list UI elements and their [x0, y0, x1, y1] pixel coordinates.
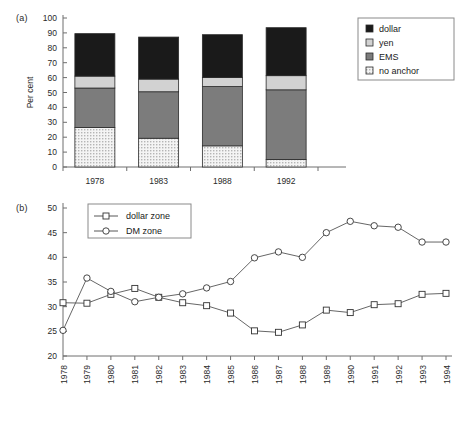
data-point-marker: [275, 249, 281, 255]
data-point-marker: [299, 254, 305, 260]
series-line: [63, 288, 446, 332]
x-axis-tick-label-b: 1992: [394, 365, 404, 384]
y-axis-tick-label-a: 40: [48, 102, 58, 112]
data-point-marker: [347, 218, 353, 224]
legend-marker: [103, 213, 109, 219]
data-point-marker: [371, 302, 377, 308]
x-axis-tick-label-a: 1978: [85, 176, 104, 186]
data-point-marker: [108, 288, 114, 294]
legend-swatch: [366, 67, 373, 74]
y-axis-tick-label-a: 50: [48, 88, 58, 98]
x-axis-tick-label-a: 1983: [149, 176, 168, 186]
stacked-bar-chart: 0102030405060708090100Per cent1978198319…: [0, 0, 459, 196]
y-axis-tick-label-a: 90: [48, 28, 58, 38]
legend-swatch: [366, 39, 373, 46]
bar-segment: [75, 76, 115, 88]
figure-container: (a) 0102030405060708090100Per cent197819…: [0, 0, 459, 421]
x-axis-tick-label-b: 1983: [178, 365, 188, 384]
data-point-marker: [132, 285, 138, 291]
data-point-marker: [323, 307, 329, 313]
legend-label-a: dollar: [379, 24, 401, 34]
bar-segment: [202, 35, 242, 78]
bar-segment: [266, 90, 306, 160]
data-point-marker: [228, 310, 234, 316]
data-point-marker: [395, 224, 401, 230]
legend-label-a: no anchor: [379, 66, 419, 76]
bar-segment: [266, 76, 306, 90]
y-axis-tick-label-a: 60: [48, 73, 58, 83]
x-axis-tick-label-b: 1987: [274, 365, 284, 384]
data-point-marker: [227, 278, 233, 284]
data-point-marker: [84, 275, 90, 281]
x-axis-tick-label-b: 1978: [59, 365, 69, 384]
data-point-marker: [203, 285, 209, 291]
legend-label-b: dollar zone: [126, 211, 170, 221]
legend-label-b: DM zone: [126, 226, 162, 236]
legend-swatch: [366, 53, 373, 60]
y-axis-tick-label-a: 70: [48, 58, 58, 68]
data-point-marker: [60, 300, 66, 306]
data-point-marker: [179, 291, 185, 297]
y-axis-title-a: Per cent: [25, 76, 35, 108]
x-axis-tick-label-a: 1992: [277, 176, 296, 186]
data-point-marker: [443, 239, 449, 245]
y-axis-tick-label-b: 45: [48, 228, 58, 238]
x-axis-tick-label-a: 1988: [213, 176, 232, 186]
bar-segment: [266, 28, 306, 76]
bar-segment: [139, 92, 179, 138]
y-axis-tick-label-b: 20: [48, 351, 58, 361]
data-point-marker: [204, 303, 210, 309]
bar-segment: [75, 88, 115, 127]
y-axis-tick-label-b: 30: [48, 302, 58, 312]
x-axis-tick-label-b: 1993: [418, 365, 428, 384]
y-axis-tick-label-a: 30: [48, 117, 58, 127]
data-point-marker: [419, 239, 425, 245]
bar-segment: [75, 34, 115, 76]
y-axis-tick-label-a: 80: [48, 43, 58, 53]
y-axis-tick-label-b: 35: [48, 277, 58, 287]
data-point-marker: [323, 229, 329, 235]
bar-segment: [139, 79, 179, 92]
bar-segment: [202, 146, 242, 167]
data-point-marker: [299, 322, 305, 328]
data-point-marker: [347, 310, 353, 316]
bar-segment: [202, 87, 242, 146]
y-axis-tick-label-a: 100: [43, 13, 57, 23]
x-axis-tick-label-b: 1991: [370, 365, 380, 384]
x-axis-tick-label-b: 1988: [298, 365, 308, 384]
data-point-marker: [252, 328, 258, 334]
data-point-marker: [251, 255, 257, 261]
bar-segment: [139, 37, 179, 79]
data-point-marker: [419, 291, 425, 297]
x-axis-tick-label-b: 1985: [226, 365, 236, 384]
x-axis-tick-label-b: 1986: [250, 365, 260, 384]
legend-swatch: [366, 25, 373, 32]
data-point-marker: [60, 327, 66, 333]
y-axis-tick-label-a: 10: [48, 147, 58, 157]
data-point-marker: [84, 300, 90, 306]
bar-segment: [75, 128, 115, 167]
data-point-marker: [443, 290, 449, 296]
x-axis-tick-label-b: 1980: [106, 365, 116, 384]
legend-label-a: EMS: [379, 52, 399, 62]
data-point-marker: [180, 300, 186, 306]
x-axis-tick-label-b: 1981: [130, 365, 140, 384]
x-axis-tick-label-b: 1990: [346, 365, 356, 384]
x-axis-tick-label-b: 1994: [442, 365, 452, 384]
data-point-marker: [132, 299, 138, 305]
data-point-marker: [156, 294, 162, 300]
x-axis-tick-label-b: 1984: [202, 365, 212, 384]
bar-segment: [202, 78, 242, 87]
x-axis-tick-label-b: 1989: [322, 365, 332, 384]
legend-marker: [103, 228, 109, 234]
bar-segment: [139, 138, 179, 167]
x-axis-tick-label-b: 1982: [154, 365, 164, 384]
y-axis-tick-label-a: 20: [48, 132, 58, 142]
y-axis-tick-label-a: 0: [52, 162, 57, 172]
x-axis-tick-label-b: 1979: [82, 365, 92, 384]
y-axis-tick-label-b: 50: [48, 203, 58, 213]
legend-label-a: yen: [379, 38, 394, 48]
data-point-marker: [395, 301, 401, 307]
y-axis-tick-label-b: 25: [48, 326, 58, 336]
y-axis-tick-label-b: 40: [48, 252, 58, 262]
